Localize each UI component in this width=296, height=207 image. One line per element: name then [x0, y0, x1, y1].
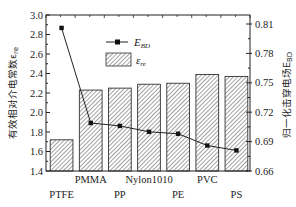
- right-axis-title: 归一化击穿电场EBD: [281, 52, 294, 138]
- bar-nylon1010: [138, 84, 161, 171]
- x-label-pvc: PVC: [197, 174, 217, 185]
- bar-ptfe: [50, 140, 73, 171]
- legend-marker-square-icon: [115, 40, 120, 45]
- left-tick-label: 1.6: [30, 146, 43, 157]
- left-tick-label: 2.0: [30, 107, 43, 118]
- left-tick-label: 1.8: [30, 127, 43, 138]
- point-pp: [118, 124, 122, 128]
- right-tick-label: 0.66: [255, 166, 273, 177]
- legend-swatch-hatch-icon: [106, 53, 131, 66]
- legend-label-eps-re: εre: [136, 54, 146, 68]
- x-label-ps: PS: [231, 189, 243, 200]
- right-tick-label: 0.81: [255, 19, 273, 30]
- legend: EBD εre: [106, 36, 150, 68]
- x-axis-labels: PTFEPMMAPPNylon1010PEPVCPS: [49, 174, 242, 200]
- x-label-pe: PE: [172, 189, 184, 200]
- x-label-nylon1010: Nylon1010: [125, 174, 172, 185]
- bar-pe: [167, 83, 190, 171]
- bar-pmma: [79, 90, 102, 171]
- bar-ps: [225, 76, 248, 171]
- point-nylon1010: [147, 130, 151, 134]
- right-tick-label: 0.75: [255, 77, 273, 88]
- left-tick-label: 3.0: [30, 10, 43, 21]
- dielectric-breakdown-chart: 1.41.61.82.02.22.42.62.83.0 0.660.690.72…: [0, 0, 296, 207]
- left-tick-label: 2.2: [30, 88, 43, 99]
- right-tick-label: 0.78: [255, 48, 273, 59]
- left-tick-label: 1.4: [30, 166, 44, 177]
- left-axis-title: 有效相对介电常数εre: [7, 47, 20, 139]
- point-pmma: [89, 121, 93, 125]
- left-axis: 1.41.61.82.02.22.42.62.83.0: [30, 10, 50, 177]
- point-ps: [234, 148, 238, 152]
- left-tick-label: 2.8: [30, 29, 43, 40]
- point-pe: [176, 132, 180, 136]
- point-ptfe: [59, 26, 63, 30]
- bar-pvc: [196, 74, 219, 171]
- x-label-pp: PP: [114, 189, 126, 200]
- right-tick-label: 0.72: [255, 107, 273, 118]
- left-tick-label: 2.6: [30, 49, 43, 60]
- x-label-pmma: PMMA: [75, 174, 108, 185]
- point-pvc: [205, 143, 209, 147]
- left-tick-label: 2.4: [30, 68, 44, 79]
- legend-label-ebd: EBD: [133, 36, 150, 50]
- x-label-ptfe: PTFE: [49, 189, 74, 200]
- right-tick-label: 0.69: [255, 136, 273, 147]
- bar-pp: [108, 88, 131, 171]
